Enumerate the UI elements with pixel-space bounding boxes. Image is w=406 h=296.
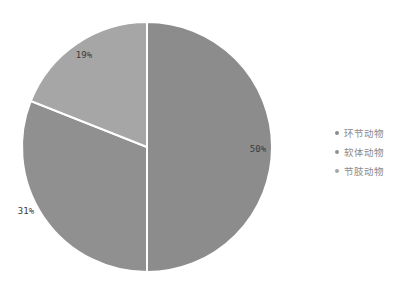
legend: 环节动物 软体动物 节肢动物 bbox=[335, 123, 384, 180]
legend-marker-icon bbox=[335, 131, 339, 135]
slice-percent-label: 50% bbox=[250, 144, 267, 154]
legend-label: 节肢动物 bbox=[344, 164, 384, 178]
legend-marker-icon bbox=[335, 169, 339, 173]
legend-item-mollusca[interactable]: 软体动物 bbox=[335, 142, 384, 161]
legend-marker-icon bbox=[335, 150, 339, 154]
legend-item-arthropoda[interactable]: 节肢动物 bbox=[335, 161, 384, 180]
slice-percent-label: 31% bbox=[18, 206, 35, 216]
legend-item-annelida[interactable]: 环节动物 bbox=[335, 123, 384, 142]
legend-label: 环节动物 bbox=[344, 126, 384, 140]
legend-label: 软体动物 bbox=[344, 145, 384, 159]
slice-percent-label: 19% bbox=[76, 50, 93, 60]
